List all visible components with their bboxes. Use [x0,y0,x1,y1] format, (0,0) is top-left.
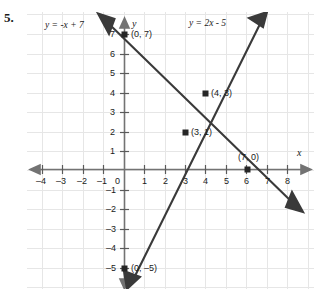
x-tick-label-6: 6 [244,176,249,186]
coordinate-plane: y = -x + 7 y = 2x - 5 y x (0, 7) (4, 3) … [27,12,314,289]
x-axis-arrow-left [30,165,40,174]
point-label-0-7: (0, 7) [131,29,152,39]
y-tick-label--4: –4 [106,243,116,253]
problem-number: 5. [4,10,14,26]
x-tick-label--2: –2 [77,176,87,186]
y-tick-label--2: –2 [106,204,116,214]
point-4-3 [203,91,209,97]
y-tick-label-2: 2 [110,127,115,137]
point-label-3-1: (3, 1) [191,127,212,137]
point-0-m5 [122,266,128,272]
x-tick-label-8: 8 [285,176,290,186]
graph-svg [27,12,314,289]
point-0-7 [122,32,128,38]
y-tick-label--1: –1 [106,185,116,195]
y-tick-label-1: 1 [110,146,115,156]
equation-label-line2: y = 2x - 5 [189,18,226,28]
x-tick-label--4: –4 [36,176,46,186]
y-tick-label-3: 3 [110,107,115,117]
y-tick-label-7: 7 [110,29,115,39]
x-axis-name: x [297,147,301,158]
point-7-0 [245,167,251,173]
y-tick-label--5: –5 [106,263,116,273]
y-tick-label-4: 4 [110,88,115,98]
point-label-7-0: (7, 0) [238,152,259,162]
worksheet-problem-graph: 5. [0,0,314,289]
x-tick-label-2: 2 [163,176,168,186]
line2-arrow-downleft [124,271,140,289]
x-tick-label-1: 1 [142,176,147,186]
y-axis-arrow-up [120,18,129,28]
y-tick-label-5: 5 [110,68,115,78]
x-axis-arrow-right [301,165,311,174]
y-tick-label-6: 6 [110,49,115,59]
y-axis-name: y [132,18,136,29]
line-y-equals-2x-minus-5 [124,12,267,289]
point-3-1 [183,130,189,136]
x-tick-label-3: 3 [183,176,188,186]
grid-lines [27,12,314,289]
x-tick-label-5: 5 [224,176,229,186]
equation-label-line1: y = -x + 7 [45,20,84,30]
point-label-4-3: (4, 3) [211,88,232,98]
x-tick-label-7: 7 [265,176,270,186]
y-tick-label--3: –3 [106,224,116,234]
point-label-0-m5: (0, –5) [131,263,157,273]
x-tick-label-4: 4 [203,176,208,186]
x-tick-label--3: –3 [56,176,66,186]
